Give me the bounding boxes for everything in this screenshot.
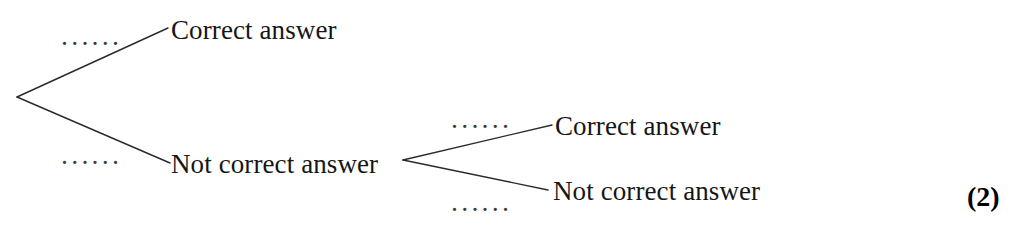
tree-branch-lines xyxy=(0,0,1034,227)
outcome-label-stage1-correct: Correct answer xyxy=(171,17,337,44)
marks-allocation: (2) xyxy=(967,183,1000,211)
probability-blank-stage2-upper: ······ xyxy=(450,114,511,141)
probability-blank-stage2-lower: ······ xyxy=(450,197,511,224)
outcome-label-stage1-not-correct: Not correct answer xyxy=(171,151,378,178)
probability-tree-figure: ······ ······ Correct answer Not correct… xyxy=(0,0,1034,227)
outcome-label-stage2-correct: Correct answer xyxy=(555,113,721,140)
probability-blank-stage1-lower: ······ xyxy=(60,150,121,177)
branch-line-stage2-lower xyxy=(403,160,548,190)
probability-blank-stage1-upper: ······ xyxy=(60,31,121,58)
outcome-label-stage2-not-correct: Not correct answer xyxy=(553,178,760,205)
